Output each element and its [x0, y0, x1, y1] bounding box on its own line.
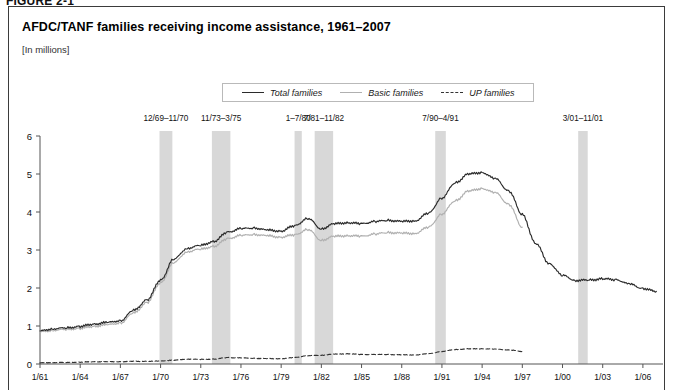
recession-band-1 [160, 131, 173, 364]
x-axis-label: 1/06 [635, 372, 652, 382]
x-axis-label: 1/82 [313, 372, 330, 382]
x-axis-label: 1/76 [233, 372, 250, 382]
x-axis-label: 1/00 [554, 372, 571, 382]
x-axis-label: 1/94 [474, 372, 491, 382]
series-line-up-families [40, 349, 522, 363]
x-axis-label: 1/67 [112, 372, 129, 382]
series-line-basic-families [40, 188, 522, 332]
figure-root: FIGURE 2-1 AFDC/TANF families receiving … [0, 0, 674, 392]
y-axis-label: 5 [16, 169, 32, 180]
y-axis-label: 0 [16, 359, 32, 370]
recession-band-label-5: 7/90–4/91 [422, 114, 458, 123]
y-axis-label: 2 [16, 283, 32, 294]
recession-band-3 [295, 131, 302, 364]
series-line-total-families [40, 172, 656, 331]
recession-band-label-2: 11/73–3/75 [201, 114, 241, 123]
x-axis-label: 1/79 [273, 372, 290, 382]
x-axis-label: 1/64 [72, 372, 89, 382]
recession-band-label-1: 12/69–11/70 [143, 114, 188, 123]
recession-band-5 [435, 131, 446, 364]
y-axis-label: 6 [16, 131, 32, 142]
recession-band-4 [315, 131, 333, 364]
x-axis-label: 1/70 [152, 372, 169, 382]
x-axis-label: 1/97 [514, 372, 531, 382]
y-axis-label: 1 [16, 321, 32, 332]
y-axis-label: 4 [16, 207, 32, 218]
y-axis-label: 3 [16, 245, 32, 256]
x-axis-label: 1/88 [393, 372, 410, 382]
recession-band-label-6: 3/01–11/01 [563, 114, 603, 123]
recession-band-label-4: 7/81–11/82 [304, 114, 344, 123]
x-axis-label: 1/03 [594, 372, 611, 382]
x-axis-label: 1/91 [434, 372, 451, 382]
chart-plot-area [0, 0, 674, 392]
recession-band-6 [578, 131, 588, 364]
x-axis-label: 1/73 [192, 372, 209, 382]
x-axis-label: 1/61 [32, 372, 49, 382]
x-axis-label: 1/85 [353, 372, 370, 382]
